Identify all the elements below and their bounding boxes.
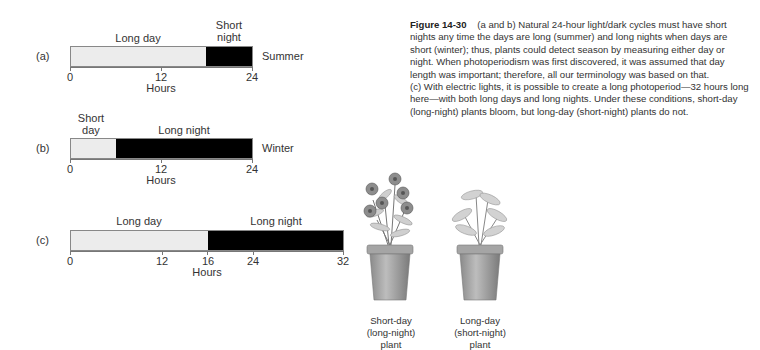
long-day-plant-label: Long-day (short-night) plant [440,315,520,350]
tick-label: 12 [156,255,168,267]
tick-label: 0 [67,163,73,175]
panel-b-day-label: Short day [78,112,104,136]
panel-b-bar [70,138,253,159]
panel-c-day-label: Long day [116,215,161,227]
tick-label: 0 [67,71,73,83]
panel-a-day-label: Long day [115,32,160,44]
panel-c-night-label: Long night [250,215,301,227]
tick-label: 0 [67,255,73,267]
panel-c-axis-title: Hours [192,266,221,278]
panel-c-night-segment [208,231,343,250]
panel-a-night-label: Short night [216,19,242,43]
panel-c-bar [70,230,344,251]
panel-c-label: (c) [36,234,49,246]
panel-a-night-segment [206,47,252,66]
tick-label: 24 [246,71,258,83]
short-day-plant-illustration [355,165,425,305]
tick-label: 24 [246,163,258,175]
short-day-plant-label: Short-day (long-night) plant [351,315,431,350]
tick-label: 32 [337,255,349,267]
panel-b-axis-title: Hours [146,174,175,186]
figure-label: Figure 14-30 [410,19,467,30]
tick-label: 24 [247,255,259,267]
long-day-plant-illustration [450,185,510,305]
panel-b-night-segment [116,139,252,158]
panel-b-night-label: Long night [158,124,209,136]
figure-caption: Figure 14-30 (a and b) Natural 24-hour l… [410,19,750,118]
panel-a-bar [70,46,253,67]
panel-a-label: (a) [36,50,49,62]
panel-a-axis-title: Hours [146,82,175,94]
flowering-plant-icon [355,165,425,305]
panel-b-season: Winter [262,142,294,154]
leafy-plant-icon [450,185,510,305]
panel-a-season: Summer [262,50,304,62]
panel-b-label: (b) [36,142,49,154]
caption-text-c: (c) With electric lights, it is possible… [410,81,749,117]
